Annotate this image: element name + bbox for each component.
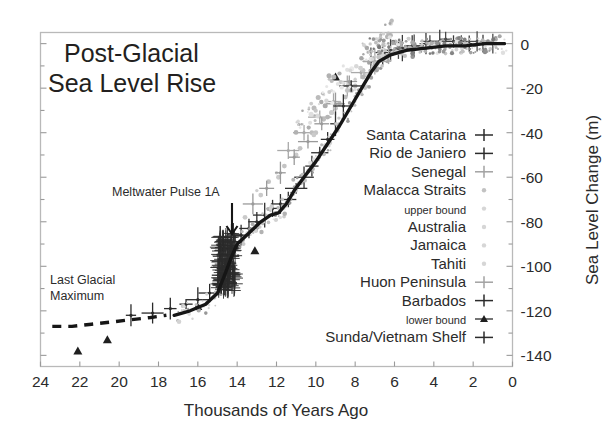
scatter-point (251, 222, 255, 226)
scatter-point (330, 149, 332, 151)
scatter-point (332, 90, 335, 93)
annotation-lgm-line2: Maximum (50, 289, 104, 303)
legend-marker-dot (482, 188, 486, 192)
scatter-point (469, 48, 471, 50)
scatter-point (461, 49, 465, 53)
scatter-point (453, 41, 455, 43)
scatter-point (365, 59, 367, 61)
scatter-point (488, 50, 490, 52)
scatter-point (337, 116, 340, 119)
scatter-point (337, 71, 341, 75)
scatter-point (425, 41, 428, 44)
scatter-point (318, 103, 320, 105)
data-point (265, 187, 268, 190)
scatter-point (369, 53, 372, 56)
x-tick-label: 24 (32, 373, 50, 390)
scatter-point (484, 49, 488, 53)
data-point (353, 78, 356, 81)
scatter-point (327, 73, 332, 78)
scatter-point (450, 51, 454, 55)
scatter-point (241, 230, 244, 233)
scatter-point (410, 40, 415, 45)
scatter-point (316, 95, 321, 100)
scatter-point (369, 42, 372, 45)
y-tick-label: -140 (521, 347, 552, 364)
data-point (169, 307, 172, 310)
scatter-point (501, 48, 503, 50)
scatter-point (397, 43, 400, 46)
scatter-point (307, 126, 311, 130)
scatter-point (277, 207, 279, 209)
scatter-point (327, 149, 329, 151)
data-point (334, 102, 337, 105)
scatter-point (204, 311, 208, 315)
scatter-point (300, 123, 303, 126)
scatter-point (341, 81, 344, 84)
legend-label: Australia (408, 218, 467, 235)
scatter-point (390, 18, 394, 22)
scatter-point (380, 64, 384, 68)
legend-label: Tahiti (431, 255, 466, 272)
scatter-point (312, 171, 314, 173)
y-tick-label: -40 (521, 125, 544, 142)
scatter-point (242, 242, 246, 246)
scatter-point (359, 56, 363, 60)
scatter-point (405, 40, 408, 43)
scatter-point (299, 126, 302, 129)
scatter-point (480, 49, 482, 51)
x-axis-title: Thousands of Years Ago (184, 401, 368, 420)
scatter-point (381, 49, 384, 52)
data-point (282, 164, 287, 169)
scatter-point (314, 109, 318, 113)
x-tick-label: 16 (189, 373, 206, 390)
scatter-point (429, 52, 432, 55)
scatter-point (279, 216, 282, 219)
scatter-point (421, 39, 424, 42)
legend-label: lower bound (406, 314, 466, 326)
scatter-point (430, 41, 434, 45)
x-tick-label: 6 (390, 373, 399, 390)
scatter-point (387, 42, 390, 45)
scatter-point (450, 38, 453, 41)
scatter-point (183, 305, 186, 308)
scatter-point (371, 58, 374, 61)
scatter-point (401, 41, 403, 43)
scatter-point (372, 37, 376, 41)
scatter-point (325, 85, 328, 88)
x-tick-label: 8 (351, 373, 360, 390)
scatter-point (335, 122, 338, 125)
legend-label: Malacca Straits (363, 181, 466, 198)
y-tick-label: -80 (521, 214, 544, 231)
data-point (196, 298, 199, 301)
y-tick-label: -100 (521, 258, 552, 275)
data-point (325, 115, 330, 120)
scatter-point (503, 38, 505, 40)
scatter-point (474, 51, 476, 53)
scatter-point (469, 38, 472, 41)
scatter-point (425, 38, 428, 41)
scatter-point (324, 99, 328, 103)
x-tick-label: 0 (508, 373, 517, 390)
data-point (293, 156, 296, 159)
scatter-point (391, 41, 395, 45)
scatter-point (373, 48, 375, 50)
scatter-point (469, 51, 473, 55)
scatter-point (270, 204, 274, 208)
scatter-point (340, 85, 344, 89)
scatter-point (309, 102, 313, 106)
legend-label: Huon Peninsula (360, 273, 467, 290)
scatter-point (374, 41, 378, 45)
scatter-point (198, 303, 200, 305)
scatter-point (485, 46, 487, 48)
scatter-point (351, 111, 353, 113)
data-point (306, 140, 309, 143)
chart-title-line1: Post-Glacial (64, 39, 199, 67)
data-point (287, 149, 290, 152)
scatter-point (308, 161, 312, 165)
scatter-point (313, 114, 315, 116)
scatter-point (191, 318, 193, 320)
scatter-point (336, 82, 340, 86)
scatter-point (282, 211, 287, 216)
scatter-point (322, 91, 325, 94)
scatter-point (376, 38, 379, 41)
